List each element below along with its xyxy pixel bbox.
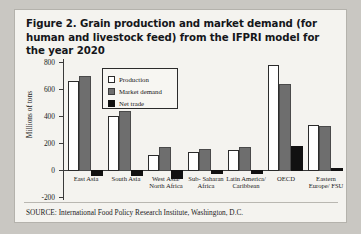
- legend-label-net-trade: Net trade: [119, 100, 144, 107]
- bar-production: [148, 155, 159, 171]
- legend-item-market-demand: Market demand: [108, 85, 177, 97]
- x-tick-label-sub-saharan-africa: Sub- Saharan Africa: [186, 175, 226, 190]
- legend-item-production: Production: [108, 73, 177, 85]
- bar-net-trade: [211, 170, 223, 174]
- y-tick-label-0: 0: [27, 167, 55, 174]
- bar-market-demand: [239, 147, 251, 171]
- legend-swatch-market-demand-icon: [108, 88, 115, 95]
- legend-item-net-trade: Net trade: [108, 97, 177, 109]
- figure-panel: Figure 2. Grain production and market de…: [14, 9, 347, 223]
- y-tick-mark: [59, 170, 64, 171]
- x-tick-label-latin-america-caribbean: Latin America/ Caribbean: [226, 175, 266, 190]
- bar-market-demand: [199, 149, 211, 171]
- y-tick-label-400: 400: [27, 113, 55, 120]
- x-tick-label-oecd: OECD: [267, 175, 305, 182]
- bar-production: [108, 116, 119, 171]
- bar-net-trade: [251, 170, 263, 174]
- bar-group-eastern-europe-fsu: Eastern Europe/ FSU: [307, 54, 345, 200]
- bar-group-sub-saharan-africa: Sub- Saharan Africa: [187, 54, 225, 200]
- legend-label-production: Production: [119, 76, 149, 83]
- y-tick-mark: [59, 116, 64, 117]
- legend-swatch-net-trade-icon: [108, 100, 115, 107]
- bar-market-demand: [79, 76, 91, 171]
- source-divider: [24, 202, 338, 203]
- bar-net-trade: [331, 168, 343, 171]
- legend-swatch-production-icon: [108, 76, 115, 83]
- y-tick-mark: [59, 62, 64, 63]
- y-axis-line: [63, 59, 64, 200]
- y-tick-mark: [59, 143, 64, 144]
- bar-group-oecd: OECD: [267, 54, 305, 200]
- bar-net-trade: [291, 146, 303, 171]
- bar-production: [68, 81, 79, 171]
- bar-market-demand: [159, 147, 171, 171]
- x-tick-label-west-asia-north-africa: West Asia/ North Africa: [145, 175, 187, 190]
- y-tick-label-800: 800: [27, 59, 55, 66]
- y-tick-label-600: 600: [27, 86, 55, 93]
- y-tick-mark: [59, 197, 64, 198]
- x-tick-label-eastern-europe-fsu: Eastern Europe/ FSU: [306, 175, 346, 190]
- source-note: SOURCE: International Food Policy Resear…: [26, 208, 243, 217]
- bar-group-east-asia: East Asia: [67, 54, 105, 200]
- bar-production: [308, 125, 319, 171]
- legend-label-market-demand: Market demand: [119, 88, 162, 95]
- y-tick-mark: [59, 89, 64, 90]
- bar-market-demand: [279, 84, 291, 171]
- bar-production: [188, 152, 199, 171]
- bar-market-demand: [119, 111, 131, 171]
- x-tick-label-south-asia: South Asia: [107, 175, 145, 182]
- chart-legend: Production Market demand Net trade: [102, 68, 178, 109]
- y-tick-label-200: 200: [27, 140, 55, 147]
- bar-production: [268, 65, 279, 171]
- figure-title: Figure 2. Grain production and market de…: [26, 17, 336, 58]
- chart-plot-area: Millions of tons 800 600 400 200 0 -200 …: [15, 54, 348, 200]
- x-tick-label-east-asia: East Asia: [67, 175, 105, 182]
- y-tick-label-neg200: -200: [27, 194, 55, 201]
- bar-group-latin-america-caribbean: Latin America/ Caribbean: [227, 54, 265, 200]
- bar-market-demand: [319, 126, 331, 171]
- bar-production: [228, 150, 239, 171]
